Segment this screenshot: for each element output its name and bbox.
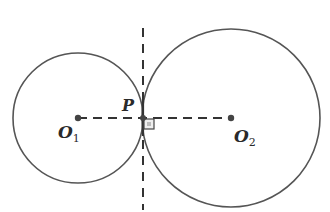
center-point-o1 — [75, 115, 81, 121]
tangent-circles-diagram: P O1 O2 — [0, 0, 330, 212]
tangent-point-p — [140, 115, 146, 121]
right-angle-marker-inner — [147, 122, 151, 126]
center-point-o2 — [228, 115, 234, 121]
label-o2: O2 — [234, 126, 256, 149]
label-o1: O1 — [58, 122, 80, 145]
label-p: P — [121, 96, 135, 115]
